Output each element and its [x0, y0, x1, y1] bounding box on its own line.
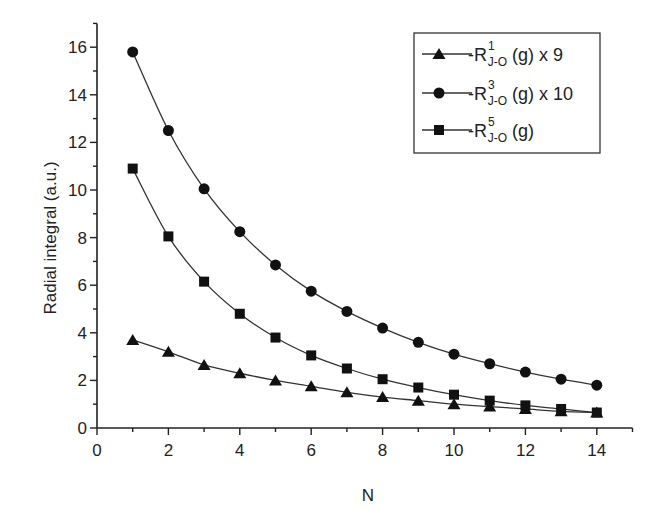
- circle-marker: [163, 125, 174, 136]
- circle-marker: [556, 374, 567, 385]
- y-tick-label: 16: [68, 38, 87, 57]
- circle-marker: [341, 306, 352, 317]
- x-tick-label: 14: [587, 441, 606, 460]
- square-marker: [306, 350, 316, 360]
- circle-marker: [591, 380, 602, 391]
- triangle-marker: [126, 334, 139, 345]
- triangle-marker: [198, 359, 211, 370]
- square-marker: [342, 364, 352, 374]
- y-tick-label: 6: [78, 276, 87, 295]
- circle-marker: [306, 286, 317, 297]
- y-tick-label: 14: [68, 86, 87, 105]
- circle-marker: [520, 367, 531, 378]
- y-tick-label: 2: [78, 371, 87, 390]
- y-tick-label: 0: [78, 419, 87, 438]
- x-axis-label: N: [362, 486, 374, 505]
- legend-square-icon: [434, 125, 444, 135]
- square-marker: [520, 400, 530, 410]
- y-tick-label: 8: [78, 229, 87, 248]
- square-marker: [128, 164, 138, 174]
- circle-marker: [484, 358, 495, 369]
- x-tick-label: 2: [164, 441, 173, 460]
- y-tick-label: 10: [68, 181, 87, 200]
- y-axis-label: Radial integral (a.u.): [41, 161, 60, 314]
- square-marker: [271, 333, 281, 343]
- circle-marker: [413, 337, 424, 348]
- x-tick-label: 6: [306, 441, 315, 460]
- square-marker: [485, 396, 495, 406]
- circle-marker: [377, 323, 388, 334]
- square-marker: [378, 374, 388, 384]
- series-square: [128, 164, 602, 418]
- circle-marker: [270, 259, 281, 270]
- square-marker: [556, 404, 566, 414]
- circle-marker: [449, 349, 460, 360]
- legend: -R1J-O (g) x 9-R3J-O (g) x 10-R5J-O (g): [414, 33, 600, 153]
- radial-integral-chart: 024681012140246810121416 -R1J-O (g) x 9-…: [0, 0, 663, 526]
- square-marker: [163, 231, 173, 241]
- triangle-marker: [162, 346, 175, 357]
- x-tick-label: 12: [516, 441, 535, 460]
- x-tick-label: 8: [378, 441, 387, 460]
- circle-marker: [199, 183, 210, 194]
- x-tick-label: 0: [92, 441, 101, 460]
- square-marker: [449, 390, 459, 400]
- circle-marker: [127, 46, 138, 57]
- square-marker: [413, 383, 423, 393]
- legend-circle-icon: [434, 88, 445, 99]
- y-tick-label: 4: [78, 324, 87, 343]
- square-marker: [235, 309, 245, 319]
- x-tick-label: 10: [445, 441, 464, 460]
- square-marker: [592, 408, 602, 418]
- circle-marker: [234, 226, 245, 237]
- square-marker: [199, 277, 209, 287]
- series-triangle: [126, 334, 603, 418]
- x-tick-label: 4: [235, 441, 244, 460]
- y-tick-label: 12: [68, 133, 87, 152]
